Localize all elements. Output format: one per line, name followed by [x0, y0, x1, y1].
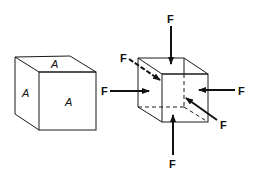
- force-label-bottom: F: [169, 158, 176, 170]
- force-label-right: F: [238, 85, 245, 97]
- side-face-label: A: [21, 87, 29, 99]
- force-label-front-diagonal: F: [220, 119, 227, 131]
- force-label-top: F: [167, 13, 174, 25]
- right-cube: F F F F F F: [101, 13, 245, 170]
- force-label-back-diagonal: F: [120, 52, 127, 64]
- right-cube-bottom-left-edge: [138, 107, 162, 122]
- top-face-label: A: [50, 58, 58, 70]
- right-cube-front-face: [162, 74, 208, 122]
- left-cube: A A A: [15, 56, 96, 130]
- diagram-canvas: A A A F F F F F F: [0, 0, 263, 180]
- force-arrow-front-diagonal: [186, 98, 217, 120]
- front-face-label: A: [64, 96, 72, 108]
- hidden-edge-bottom-right: [184, 107, 208, 122]
- force-label-left: F: [101, 85, 108, 97]
